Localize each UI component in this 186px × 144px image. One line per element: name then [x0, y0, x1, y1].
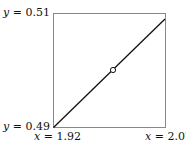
open-circle-marker [110, 67, 115, 72]
curve-line [54, 19, 166, 128]
x-right-value: = 2.07 [151, 130, 186, 143]
y-top-value: = 0.51 [9, 6, 50, 19]
x-right-label: x = 2.07 [145, 131, 186, 143]
x-left-value: = 1.92 [40, 130, 81, 143]
y-top-label: y = 0.51 [3, 7, 50, 19]
x-left-label: x = 1.92 [34, 131, 81, 143]
